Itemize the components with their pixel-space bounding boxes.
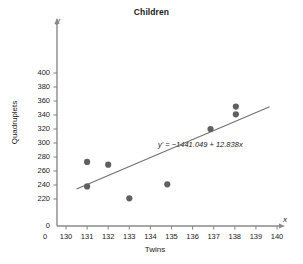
y-tick-label: 260 bbox=[26, 166, 50, 175]
y-tick-label: 300 bbox=[26, 138, 50, 147]
y-tick-label: 240 bbox=[26, 180, 50, 189]
y-tick-label: 220 bbox=[26, 194, 50, 203]
y-axis-arrow-icon bbox=[54, 18, 59, 24]
y-tick-label: 340 bbox=[26, 110, 50, 119]
data-point bbox=[84, 159, 90, 165]
data-point bbox=[233, 104, 239, 110]
y-tick-label: 380 bbox=[26, 82, 50, 91]
y-tick-label: 280 bbox=[26, 152, 50, 161]
data-point bbox=[84, 183, 90, 189]
regression-line bbox=[77, 107, 270, 189]
x-tick-label: 140 bbox=[265, 232, 289, 241]
x-axis-arrow-icon bbox=[279, 223, 285, 228]
y-tick-label: 0 bbox=[26, 221, 50, 230]
data-point bbox=[207, 126, 213, 132]
data-point bbox=[126, 195, 132, 201]
y-tick-label: 400 bbox=[26, 68, 50, 77]
data-point bbox=[164, 181, 170, 187]
data-point bbox=[233, 111, 239, 117]
y-tick-label: 360 bbox=[26, 96, 50, 105]
chart-container: Children Quadruplets Twins y x y' = −144… bbox=[0, 0, 303, 264]
data-point bbox=[105, 162, 111, 168]
y-tick-label: 320 bbox=[26, 124, 50, 133]
